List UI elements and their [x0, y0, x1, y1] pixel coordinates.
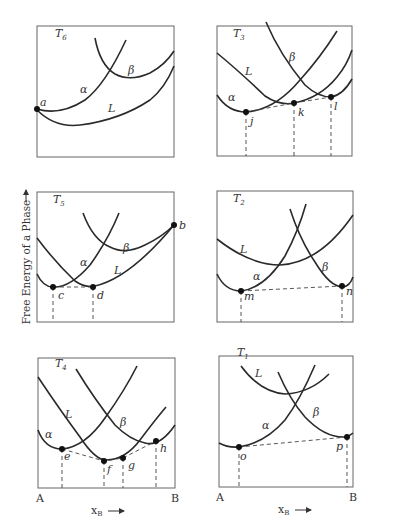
- phase-label-alpha: α: [253, 270, 261, 283]
- alpha-curve: [38, 366, 137, 449]
- temp-label-T6: T6: [55, 27, 67, 42]
- phase-label-beta: β: [127, 64, 134, 77]
- panel-T2: T2 m n α β L: [217, 191, 353, 322]
- point-label-p: p: [336, 440, 343, 453]
- point-c: [50, 284, 56, 290]
- point-label-m: m: [244, 290, 254, 303]
- panel-T4: T4 e f g h α L β A B xB: [35, 357, 179, 518]
- panel-T6: T6 a α β L: [34, 26, 174, 157]
- axis-label-B: B: [349, 491, 357, 504]
- composition-dropdowns: [246, 97, 331, 156]
- point-label-l: l: [334, 100, 338, 113]
- point-label-c: c: [58, 289, 64, 302]
- point-g: [120, 455, 126, 461]
- point-n: [339, 283, 345, 289]
- svg-text:Free Energy of a Phase: Free Energy of a Phase: [20, 200, 32, 325]
- point-label-e: e: [64, 450, 71, 463]
- phase-label-alpha: α: [228, 91, 236, 104]
- temp-label-T4: T4: [55, 357, 67, 372]
- point-h: [153, 438, 159, 444]
- liquid-curve: [37, 66, 174, 125]
- phase-label-alpha: α: [45, 428, 53, 441]
- point-k: [291, 100, 297, 106]
- common-tangents: [62, 441, 156, 461]
- x-axis-variable-label: xB: [278, 503, 289, 517]
- phase-label-liquid: L: [244, 65, 252, 78]
- point-label-b: b: [179, 219, 186, 232]
- point-label-n: n: [346, 285, 353, 298]
- alpha-curve: [219, 365, 315, 447]
- point-label-g: g: [128, 459, 135, 472]
- temp-label-T3: T3: [233, 27, 245, 42]
- phase-label-liquid: L: [64, 408, 72, 421]
- beta-curve: [76, 369, 175, 444]
- composition-dropdowns: [239, 437, 347, 487]
- panel-T3: T3 j k l α L β: [217, 22, 352, 156]
- phase-label-liquid: L: [113, 264, 121, 277]
- point-d: [90, 284, 96, 290]
- alpha-curve: [37, 213, 119, 287]
- panel-T5: T5 c d b α β L: [37, 192, 186, 322]
- phase-label-liquid: L: [107, 102, 115, 115]
- y-axis-label: Free Energy of a Phase: [20, 200, 32, 325]
- phase-label-beta: β: [119, 416, 126, 429]
- point-label-j: j: [247, 115, 254, 128]
- temp-label-T5: T5: [53, 193, 65, 208]
- phase-label-alpha: α: [80, 83, 88, 96]
- panel-T1: T1 o p α β L A B xB: [215, 346, 357, 517]
- free-energy-composition-diagram: Free Energy of a Phase T6 a α β L T3 j k: [0, 0, 408, 531]
- axis-label-A: A: [35, 492, 45, 505]
- phase-label-liquid: L: [254, 367, 262, 380]
- phase-label-beta: β: [321, 261, 328, 274]
- phase-label-beta: β: [288, 51, 295, 64]
- axis-label-A: A: [215, 491, 225, 504]
- x-axis-variable-label: xB: [91, 504, 102, 518]
- phase-label-beta: β: [312, 406, 319, 419]
- point-label-d: d: [97, 289, 104, 302]
- point-label-a: a: [40, 96, 47, 109]
- phase-label-alpha: α: [262, 419, 270, 432]
- phase-label-liquid: L: [239, 243, 247, 256]
- point-b: [171, 222, 177, 228]
- temp-label-T1: T1: [237, 346, 249, 361]
- point-label-o: o: [240, 450, 247, 463]
- point-label-h: h: [160, 442, 167, 455]
- alpha-curve: [37, 40, 126, 111]
- point-label-k: k: [298, 106, 305, 119]
- phase-label-beta: β: [122, 242, 129, 255]
- point-p: [344, 434, 350, 440]
- point-label-f: f: [106, 463, 113, 476]
- temp-label-T2: T2: [233, 192, 245, 207]
- axis-label-B: B: [171, 492, 179, 505]
- beta-curve: [95, 38, 174, 78]
- composition-dropdowns: [241, 286, 342, 322]
- beta-curve: [266, 22, 352, 97]
- liquid-curve: [38, 377, 166, 460]
- phase-label-alpha: α: [80, 256, 88, 269]
- beta-curve: [278, 372, 353, 437]
- liquid-curve: [37, 225, 174, 286]
- liquid-curve: [217, 215, 353, 265]
- beta-curve: [290, 209, 353, 287]
- point-j: [243, 109, 249, 115]
